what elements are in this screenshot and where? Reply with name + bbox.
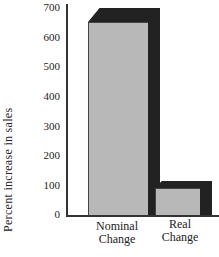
x-label-line: Change bbox=[155, 231, 205, 244]
bar-front-face bbox=[88, 22, 148, 216]
bar-front-face bbox=[155, 188, 200, 216]
y-axis-label: Percent increase in sales bbox=[1, 108, 16, 232]
y-tick-600: 600 bbox=[30, 31, 60, 43]
x-label-nominal: Nominal Change bbox=[82, 220, 152, 246]
y-axis-line bbox=[66, 4, 68, 217]
y-tick-500: 500 bbox=[30, 60, 60, 72]
y-tick-300: 300 bbox=[30, 120, 60, 132]
x-label-real: Real Change bbox=[155, 218, 205, 244]
y-tick-0: 0 bbox=[30, 208, 60, 220]
x-axis-line bbox=[66, 215, 219, 217]
bar-real-change bbox=[155, 181, 212, 216]
y-tick-100: 100 bbox=[30, 179, 60, 191]
bar-side-face bbox=[200, 181, 212, 216]
y-tick-400: 400 bbox=[30, 90, 60, 102]
bar-nominal-change bbox=[88, 8, 160, 216]
y-tick-200: 200 bbox=[30, 149, 60, 161]
x-label-line: Change bbox=[82, 233, 152, 246]
y-tick-700: 700 bbox=[30, 1, 60, 13]
